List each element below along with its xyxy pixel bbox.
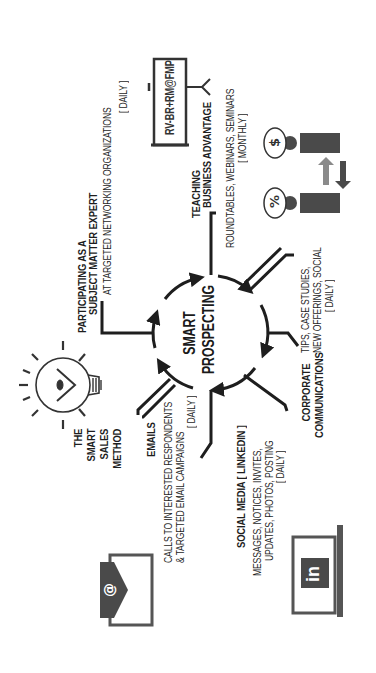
- node-smart-sales-method: THE SMART SALES METHOD: [72, 429, 124, 450]
- node-emails: EMAILS CALLS TO INTERESTED RESPONDENTS &…: [145, 367, 198, 563]
- node-line: [ DAILY ]: [324, 247, 336, 312]
- node-line: SOCIAL MEDIA [ LINKEDIN ]: [235, 425, 248, 548]
- center-label: SMART PROSPECTING: [181, 292, 218, 374]
- dollar-glyph: $: [267, 138, 282, 147]
- node-line: CORPORATE: [300, 352, 313, 421]
- node-line: TIPS, CASE STUDIES,: [300, 247, 312, 353]
- linkedin-glyph: in: [303, 566, 324, 582]
- node-line: NEW OFFERINGS, SOCIAL: [312, 247, 324, 353]
- node-subject-matter-expert: PARTICIPATING AS A SUBJECT MATTER EXPERT…: [76, 66, 129, 333]
- lightbulb-icon: [19, 341, 101, 429]
- smart-prospecting-diagram: @ in % $ RV-BR+RM@FMP SMART PROSPECTING …: [0, 0, 376, 673]
- node-line: SMART: [85, 429, 98, 462]
- node-corporate-details: TIPS, CASE STUDIES, NEW OFFERINGS, SOCIA…: [300, 247, 335, 353]
- node-line: AT TARGETED NETWORKING ORGANIZATIONS: [102, 107, 114, 295]
- node-line: SALES: [98, 429, 111, 462]
- node-social-media: SOCIAL MEDIA [ LINKEDIN ] MESSAGES, NOTI…: [235, 398, 287, 548]
- node-line: SUBJECT MATTER EXPERT: [87, 111, 100, 315]
- node-line: THE: [72, 429, 85, 450]
- signpost-text: RV-BR+RM@FMP: [163, 60, 177, 135]
- node-teaching-details: ROUNDTABLES, WEBINARS, SEMINARS [ MONTHL…: [225, 89, 249, 248]
- node-teaching: TEACHING BUSINESS ADVANTAGE: [190, 79, 214, 218]
- node-line: [ MONTHLY ]: [237, 89, 249, 163]
- center-label-line2: PROSPECTING: [200, 292, 219, 374]
- node-corporate-communications: CORPORATE COMMUNICATIONS: [300, 352, 326, 438]
- node-line: EMAILS: [145, 383, 158, 457]
- node-line: [ DAILY ]: [118, 75, 130, 113]
- percent-glyph: %: [267, 195, 282, 208]
- node-line: BUSINESS ADVANTAGE: [201, 102, 214, 208]
- node-line: ROUNDTABLES, WEBINARS, SEMINARS: [225, 89, 237, 248]
- center-label-line1: SMART: [181, 292, 200, 374]
- node-line: [ DAILY ]: [275, 414, 287, 483]
- node-line: COMMUNICATIONS: [313, 352, 326, 438]
- node-line: UPDATES, PHOTOS, POSTING: [264, 428, 276, 561]
- email-at-glyph: @: [101, 583, 117, 597]
- node-line: METHOD: [111, 429, 124, 473]
- node-line: [ DAILY ]: [186, 378, 198, 428]
